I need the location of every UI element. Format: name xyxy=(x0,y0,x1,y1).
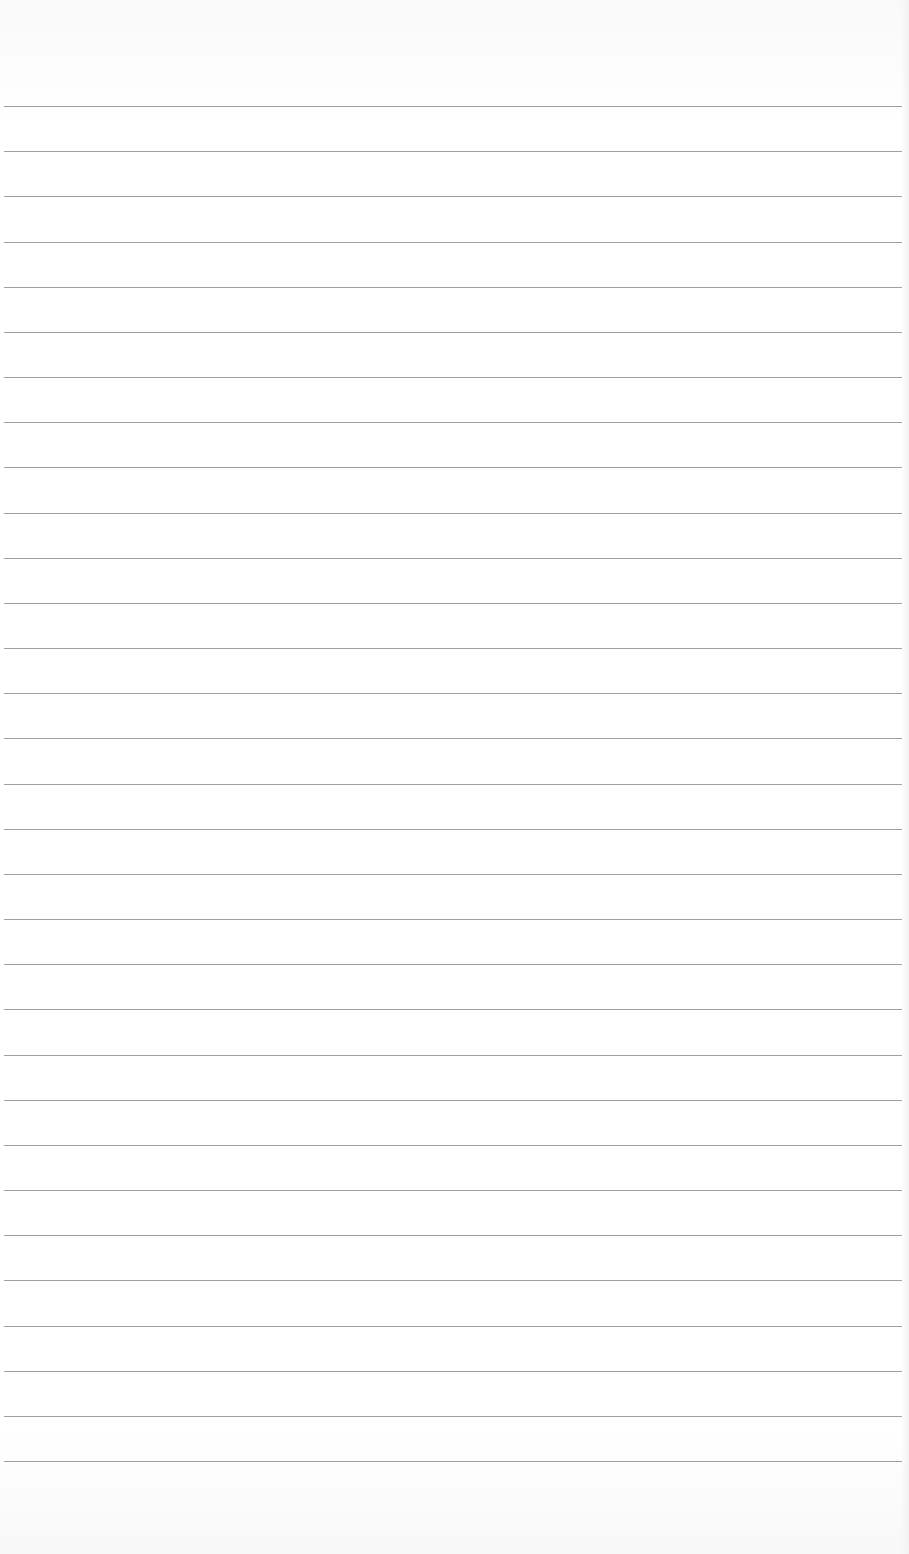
ruled-line xyxy=(4,693,902,694)
ruled-line xyxy=(4,151,902,152)
ruled-line xyxy=(4,1326,902,1327)
ruled-line xyxy=(4,964,902,965)
ruled-line xyxy=(4,106,902,107)
ruled-line xyxy=(4,874,902,875)
ruled-line xyxy=(4,919,902,920)
ruled-line xyxy=(4,738,902,739)
ruled-line xyxy=(4,242,902,243)
ruled-line xyxy=(4,1100,902,1101)
ruled-line xyxy=(4,1461,902,1462)
ruled-line xyxy=(4,377,902,378)
ruled-line xyxy=(4,513,902,514)
ruled-line xyxy=(4,1145,902,1146)
ruled-line xyxy=(4,1055,902,1056)
ruled-line xyxy=(4,558,902,559)
ruled-line xyxy=(4,603,902,604)
ruled-line xyxy=(4,829,902,830)
paper-edge-shadow xyxy=(901,0,909,1554)
ruled-line xyxy=(4,287,902,288)
ruled-line xyxy=(4,1190,902,1191)
ruled-line xyxy=(4,648,902,649)
ruled-line xyxy=(4,196,902,197)
ruled-line xyxy=(4,332,902,333)
ruled-line xyxy=(4,467,902,468)
ruled-line xyxy=(4,1416,902,1417)
ruled-line xyxy=(4,1009,902,1010)
ruled-line xyxy=(4,1280,902,1281)
ruled-line xyxy=(4,784,902,785)
lined-paper-sheet xyxy=(0,0,909,1554)
ruled-line xyxy=(4,1371,902,1372)
ruled-line xyxy=(4,1235,902,1236)
ruled-line xyxy=(4,422,902,423)
